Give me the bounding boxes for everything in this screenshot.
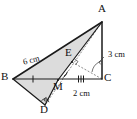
vertex-label-E: E bbox=[65, 47, 72, 58]
geometry-diagram-canvas: A B C D E M 6 cm 3 cm 2 cm bbox=[0, 0, 137, 119]
dimension-label-AC: 3 cm bbox=[108, 50, 125, 59]
vertex-label-A: A bbox=[98, 3, 106, 14]
segment-EC-dashed bbox=[72, 62, 102, 79]
dot-E bbox=[71, 61, 73, 63]
vertex-label-M: M bbox=[53, 81, 63, 92]
vertex-label-D: D bbox=[40, 104, 48, 115]
vertex-label-B: B bbox=[1, 71, 8, 82]
right-angle-at-E-icon bbox=[75, 59, 79, 65]
vertex-label-C: C bbox=[104, 72, 111, 83]
diagram-svg bbox=[0, 0, 137, 119]
dimension-label-MC: 2 cm bbox=[73, 89, 90, 98]
